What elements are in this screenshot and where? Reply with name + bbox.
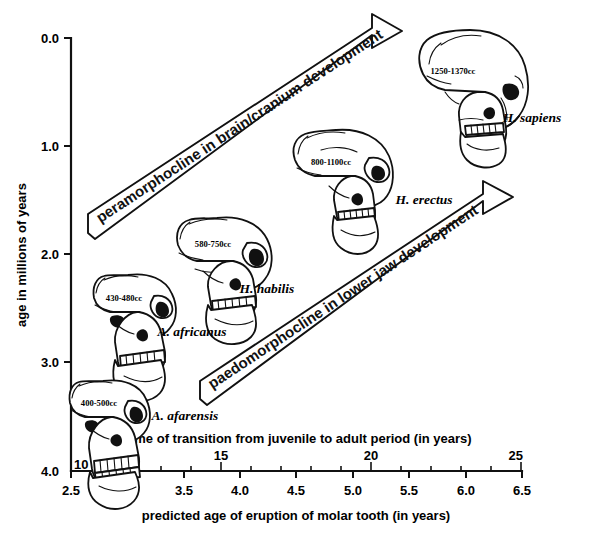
x2-tick-label-3: 25: [509, 448, 523, 463]
y-tick-label-2: 2.0: [41, 247, 59, 262]
x2-tick-label-1: 15: [214, 448, 228, 463]
skull-h-erectus: 800-1100cc: [293, 130, 392, 254]
x-tick-label-4: 4.5: [287, 483, 305, 498]
species-label-a-afarensis: A. afarensis: [151, 408, 219, 423]
skull-h-sapiens: 1250-1370cc: [419, 30, 528, 167]
x-tick-label-2: 3.5: [175, 483, 193, 498]
brain-volume-a-africanus: 430-480cc: [106, 293, 142, 303]
x2-tick-label-2: 20: [364, 448, 378, 463]
x-tick-label-5: 5.0: [344, 483, 362, 498]
species-label-h-habilis: H. habilis: [239, 281, 295, 296]
x-tick-label-7: 6.0: [457, 483, 475, 498]
brain-volume-h-sapiens: 1250-1370cc: [431, 66, 476, 76]
evolution-cline-figure: 0.0 1.0 2.0 3.0 4.0 age in millions of y…: [0, 0, 592, 548]
upper-teeth: [465, 123, 504, 135]
y-tick-label-1: 1.0: [41, 139, 59, 154]
x-tick-label-0: 2.5: [62, 483, 80, 498]
brain-volume-h-habilis: 580-750cc: [195, 239, 231, 249]
figure-canvas: 0.0 1.0 2.0 3.0 4.0 age in millions of y…: [0, 0, 592, 548]
species-label-h-erectus: H. erectus: [395, 192, 453, 207]
species-label-a-africanus: A. africanus: [156, 324, 226, 339]
x-tick-label-8: 6.5: [513, 483, 531, 498]
species-label-h-sapiens: H. sapiens: [502, 110, 562, 125]
brain-volume-a-afarensis: 400-500cc: [81, 398, 117, 408]
y-tick-label-4: 4.0: [41, 464, 59, 479]
x2-tick-label-0: 10: [74, 457, 88, 472]
y-tick-label-3: 3.0: [41, 355, 59, 370]
x-axis-title: predicted age of eruption of molar tooth…: [142, 508, 450, 523]
y-axis-title: age in millions of years: [14, 183, 29, 327]
brain-volume-h-erectus: 800-1100cc: [311, 157, 351, 167]
x-tick-label-6: 5.5: [400, 483, 418, 498]
x2-axis-title: time of transition from juvenile to adul…: [126, 431, 471, 446]
y-tick-label-0: 0.0: [41, 31, 59, 46]
x-tick-label-3: 4.0: [231, 483, 249, 498]
